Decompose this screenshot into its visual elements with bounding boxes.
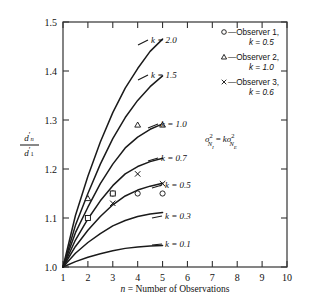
x-tick-label: 3 (110, 272, 115, 283)
x-axis-title-rest: = Number of Observations (125, 284, 229, 294)
legend-k-observer-2: k = 1.0 (249, 63, 274, 72)
y-tick-label: 1.4 (45, 66, 58, 77)
marker-circle-observer-1 (135, 191, 140, 196)
y-den-sub: 1 (31, 150, 34, 157)
figure-container: 12345678910 1.01.11.21.31.41.5 k = 2.0 k… (0, 0, 315, 306)
formula-sub-right-sub: E (233, 145, 237, 150)
x-tick-label: 2 (85, 272, 90, 283)
x-tick-label: 9 (260, 272, 265, 283)
x-tick-label: 8 (235, 272, 240, 283)
curve-label-k20: k = 2.0 (151, 35, 177, 45)
legend-k-observer-1: k = 0.5 (249, 38, 274, 47)
marker-square-extra-square (110, 191, 115, 196)
formula-equals: = (216, 134, 221, 144)
y-tick-label: 1.5 (45, 17, 58, 28)
legend-label-observer-1: —Observer 1, (228, 28, 279, 37)
curve-label-k07: k = 0.7 (161, 153, 187, 163)
legend-label-observer-3: —Observer 3, (228, 78, 279, 87)
formula-sub-left-sub: I (211, 145, 214, 150)
y-tick-label: 1.1 (45, 213, 58, 224)
chart-canvas: 12345678910 1.01.11.21.31.41.5 k = 2.0 k… (0, 0, 315, 306)
y-tick-label: 1.0 (45, 262, 58, 273)
x-tick-label: 5 (160, 272, 165, 283)
x-tick-label: 4 (135, 272, 140, 283)
x-axis-title: n = Number of Observations (121, 284, 230, 294)
x-tick-label: 7 (210, 272, 215, 283)
x-tick-label: 1 (61, 272, 66, 283)
curve-label-k15: k = 1.5 (151, 70, 177, 80)
marker-square-extra-square (85, 216, 90, 221)
y-num-sub: n (31, 135, 34, 142)
x-tick-label: 10 (282, 272, 292, 283)
formula-sup-right: 2 (231, 132, 234, 139)
y-tick-label: 1.3 (45, 115, 58, 126)
curve-label-k03: k = 0.3 (165, 211, 191, 221)
legend-label-observer-2: —Observer 2, (228, 53, 279, 62)
formula-sup-left: 2 (209, 132, 212, 139)
marker-circle-observer-1 (160, 191, 165, 196)
curve-label-k05: k = 0.5 (165, 180, 191, 190)
legend-k-observer-3: k = 0.6 (249, 88, 274, 97)
curve-label-k10: k = 1.0 (161, 119, 187, 129)
curve-label-k01: k = 0.1 (165, 239, 191, 249)
x-tick-label: 6 (185, 272, 190, 283)
y-tick-label: 1.2 (45, 164, 58, 175)
